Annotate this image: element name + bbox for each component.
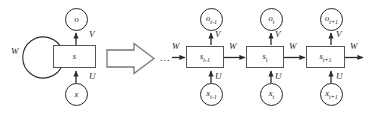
output-sub-t: t <box>273 19 275 25</box>
input-node-t-plus-1[interactable]: xt+1 <box>320 83 343 106</box>
state-sub-t: t <box>266 56 268 62</box>
output-label-t-minus-1: ot-1 <box>206 14 217 25</box>
input-node-t[interactable]: xt <box>260 83 283 106</box>
state-label-t-minus-1: st-1 <box>200 52 210 63</box>
output-sub-t-plus-1: t+1 <box>329 19 338 25</box>
weight-w-label-t-minus-1-to-t: W <box>229 42 237 51</box>
state-node-t-plus-1[interactable]: st+1 <box>306 46 345 68</box>
output-label-t-plus-1: ot+1 <box>325 14 338 25</box>
input-sub-t: t <box>273 94 275 100</box>
output-label-t: ot <box>269 14 275 25</box>
output-node-t-minus-1[interactable]: ot-1 <box>200 8 223 31</box>
rnn-unfolding-diagram: o s x V U W ... W ot-1 st-1 xt-1 V U W o… <box>0 0 370 113</box>
weight-v-label-t-plus-1: V <box>336 30 342 39</box>
output-node-t-plus-1[interactable]: ot+1 <box>320 8 343 31</box>
output-sub-t-minus-1: t-1 <box>210 19 217 25</box>
weight-u-label-t-minus-1: U <box>215 72 222 81</box>
state-node-t[interactable]: st <box>246 46 284 68</box>
weight-u-label-t: U <box>275 72 282 81</box>
folded-input-label: x <box>75 90 79 99</box>
weight-w-label-t-to-t-plus-1: W <box>289 42 297 51</box>
folded-output-label: o <box>74 15 78 24</box>
weight-v-label-t: V <box>275 30 281 39</box>
input-sub-t-plus-1: t+1 <box>329 94 338 100</box>
folded-state-label: s <box>73 52 76 61</box>
state-sub-t-minus-1: t-1 <box>203 56 210 62</box>
input-label-t-plus-1: xt+1 <box>325 89 338 100</box>
weight-v-label-t-minus-1: V <box>215 30 221 39</box>
folded-input-node[interactable]: x <box>65 83 88 106</box>
folded-output-node[interactable]: o <box>65 8 88 31</box>
folded-weight-u-label: U <box>89 72 96 81</box>
state-node-t-minus-1[interactable]: st-1 <box>186 46 224 68</box>
state-label-t: st <box>263 52 268 63</box>
trailing-weight-w-label: W <box>350 42 358 51</box>
weight-u-label-t-plus-1: U <box>336 72 343 81</box>
input-node-t-minus-1[interactable]: xt-1 <box>200 83 223 106</box>
input-label-t: xt <box>269 89 274 100</box>
input-sub-t-minus-1: t-1 <box>210 94 217 100</box>
input-label-t-minus-1: xt-1 <box>206 89 216 100</box>
folded-weight-w-label: W <box>11 47 19 56</box>
folded-weight-v-label: V <box>89 30 95 39</box>
leading-weight-w-label: W <box>172 42 180 51</box>
folded-state-node[interactable]: s <box>53 45 96 68</box>
state-label-t-plus-1: st+1 <box>319 52 331 63</box>
output-node-t[interactable]: ot <box>260 8 283 31</box>
sequence-ellipsis: ... <box>160 53 171 63</box>
state-sub-t-plus-1: t+1 <box>323 56 332 62</box>
